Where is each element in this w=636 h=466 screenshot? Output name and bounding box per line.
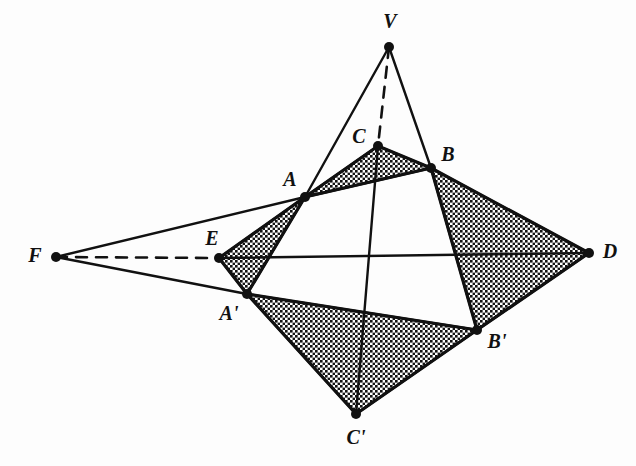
vertex-dot-F xyxy=(51,252,61,262)
edge-VB xyxy=(389,47,431,168)
vertex-dot-Bp xyxy=(472,325,482,335)
edge-FE xyxy=(56,257,219,258)
vertex-label-Cp: C' xyxy=(347,426,366,448)
vertex-label-C: C xyxy=(352,125,366,147)
dashed-edges-layer xyxy=(56,47,389,258)
vertex-dot-A xyxy=(300,192,310,202)
shaded-faces-layer xyxy=(219,146,589,414)
vertex-label-V: V xyxy=(383,10,398,32)
vertex-dot-Cp xyxy=(351,409,361,419)
vertex-dot-C xyxy=(373,141,383,151)
vertex-label-D: D xyxy=(602,240,617,262)
vertex-dot-B xyxy=(426,163,436,173)
vertex-label-A: A xyxy=(281,168,296,190)
vertex-dot-V xyxy=(384,42,394,52)
vertex-label-Bp: B' xyxy=(487,330,507,352)
vertex-label-B: B xyxy=(440,143,454,165)
diagram-canvas: VCBAFEDA'B'C' xyxy=(0,0,636,466)
vertex-dot-D xyxy=(584,248,594,258)
vertex-dot-Ap xyxy=(242,289,252,299)
vertex-label-E: E xyxy=(204,227,218,249)
vertex-label-Ap: A' xyxy=(218,302,239,324)
vertex-label-F: F xyxy=(27,244,42,266)
vertex-dot-E xyxy=(214,253,224,263)
face-AEAp xyxy=(219,197,305,294)
geometry-figure: VCBAFEDA'B'C' xyxy=(0,0,636,466)
